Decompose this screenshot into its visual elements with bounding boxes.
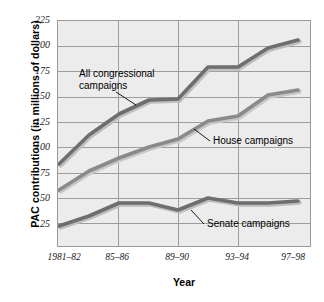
x-tick-label-1981-82: 1981–82 xyxy=(34,252,94,262)
y-tick-label-150: 150 xyxy=(10,90,50,101)
x-tick-label-89-90: 89–90 xyxy=(147,252,207,262)
annotation-senate: Senate campaigns xyxy=(207,218,290,230)
x-tick-label-85-86: 85–86 xyxy=(87,252,147,262)
x-tick-label-93-94: 93–94 xyxy=(207,252,267,262)
annotation-all-congressional: All congressional campaigns xyxy=(79,68,155,92)
x-tick-label-97-98: 97–98 xyxy=(263,252,323,262)
y-tick-label-75: 75 xyxy=(10,167,50,178)
series-layer xyxy=(58,21,311,247)
chart-root: PAC contributions (in millions of dollar… xyxy=(0,0,324,302)
y-tick-label-225: 225 xyxy=(10,14,50,25)
annotation-all-congressional-line2: campaigns xyxy=(79,80,155,92)
y-tick-label-25: 25 xyxy=(10,218,50,229)
series-all-congressional-shadow xyxy=(61,42,300,166)
annotation-all-congressional-line1: All congressional xyxy=(79,68,155,80)
plot-area: All congressional campaigns House campai… xyxy=(57,20,311,247)
annotation-house: House campaigns xyxy=(213,135,293,147)
y-tick-label-200: 200 xyxy=(10,39,50,50)
y-tick-label-175: 175 xyxy=(10,65,50,76)
y-tick-label-50: 50 xyxy=(10,192,50,203)
x-axis-title: Year xyxy=(57,276,311,288)
y-tick-label-100: 100 xyxy=(10,141,50,152)
y-tick-label-125: 125 xyxy=(10,116,50,127)
